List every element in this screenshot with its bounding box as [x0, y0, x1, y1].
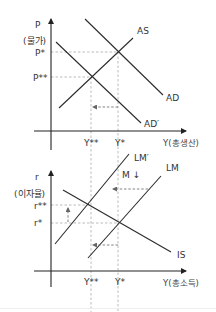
ad-prime-label: AD′: [144, 119, 159, 129]
r-axis-symbol: r: [35, 172, 39, 182]
y-star-label-top: Y*: [114, 138, 125, 148]
p-axis-label: (물가): [23, 36, 46, 46]
y-double-star-label-bottom: Y**: [83, 277, 99, 287]
ad-prime-curve: [56, 42, 141, 123]
is-curve: [63, 190, 171, 252]
money-decrease-label: M ↓: [122, 170, 140, 180]
y-output-axis-label: Y(총생산): [162, 138, 199, 148]
is-lm-panel: r (이자율) r** r* LM′ LM IS M ↓ Y** Y* Y(총소…: [14, 153, 199, 288]
is-label: IS: [177, 250, 186, 260]
ad-curve: [85, 19, 163, 95]
r-axis-label: (이자율): [14, 189, 45, 199]
ad-label: AD: [166, 93, 179, 103]
p-star-label: P*: [35, 48, 45, 58]
p-double-star-label: P**: [33, 73, 48, 83]
r-star-label: r*: [34, 218, 43, 228]
lm-curve: [88, 176, 161, 258]
y-income-axis-label: Y(총소득): [162, 278, 199, 288]
as-curve: [59, 38, 133, 108]
r-double-star-label: r**: [34, 201, 47, 211]
bottom-divider: [0, 308, 216, 309]
y-star-label-bottom: Y*: [114, 277, 125, 287]
as-label: AS: [137, 26, 149, 36]
lm-label: LM: [166, 163, 179, 173]
economics-diagram: P (물가) P* P** AS AD AD′ Y** Y* Y(총생산) r …: [0, 0, 216, 312]
p-axis-symbol: P: [35, 20, 41, 30]
y-double-star-label-top: Y**: [83, 138, 99, 148]
lm-prime-label: LM′: [134, 153, 149, 163]
lm-prime-curve: [55, 154, 129, 244]
